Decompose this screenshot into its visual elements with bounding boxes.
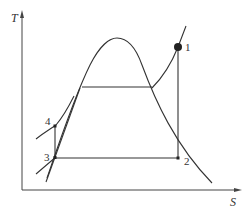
state-points bbox=[54, 43, 183, 160]
ts-diagram-canvas: T S 1 bbox=[0, 0, 252, 212]
superheat-line bbox=[152, 26, 186, 88]
point-4-marker bbox=[54, 125, 57, 128]
x-axis-label: S bbox=[230, 195, 236, 209]
point-2-label: 2 bbox=[184, 155, 190, 167]
point-1-label: 1 bbox=[185, 41, 191, 53]
liquid-line bbox=[46, 88, 80, 182]
point-3-marker bbox=[54, 156, 57, 159]
x-axis-arrow-icon bbox=[234, 188, 242, 192]
point-4-label: 4 bbox=[45, 115, 51, 127]
point-3-label: 3 bbox=[44, 151, 50, 163]
ts-diagram: T S 1 bbox=[0, 0, 252, 212]
point-2-marker bbox=[177, 157, 180, 160]
y-axis-arrow-icon bbox=[20, 10, 24, 18]
point-1-marker bbox=[174, 43, 182, 51]
y-axis-label: T bbox=[11, 11, 19, 25]
axes bbox=[20, 10, 242, 192]
